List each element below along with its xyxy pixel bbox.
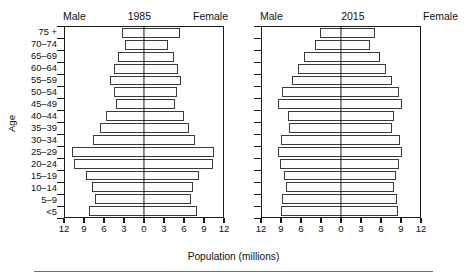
- population-axis-tick-label: 3: [161, 222, 166, 236]
- male-bar: [292, 76, 341, 86]
- male-bar: [72, 147, 144, 157]
- pyramid-row: [262, 86, 420, 98]
- male-bar: [106, 111, 144, 121]
- female-bar: [341, 64, 386, 74]
- male-bar: [100, 123, 144, 133]
- male-bar: [118, 52, 144, 62]
- age-axis-ticks-1985: [57, 26, 64, 218]
- age-axis-tick: [57, 182, 64, 183]
- age-axis-tick: [57, 62, 64, 63]
- age-axis-tick: [254, 50, 261, 51]
- male-bar: [278, 99, 341, 109]
- male-bar: [110, 76, 144, 86]
- age-group-labels-1985: 75 +70–7465–6960–6455–5950–5445–4940–443…: [18, 26, 57, 218]
- pyramid-row: [262, 98, 420, 110]
- female-bar: [341, 135, 400, 145]
- age-group-label: <5: [18, 206, 57, 218]
- age-axis-tick: [57, 194, 64, 195]
- age-axis-title: Age: [6, 104, 17, 144]
- male-bar: [278, 147, 341, 157]
- pyramid-row: [65, 193, 223, 205]
- age-axis-tick: [57, 110, 64, 111]
- population-axis-labels-1985: 12963036912: [64, 222, 224, 236]
- age-group-label: 5–9: [18, 194, 57, 206]
- population-axis-tick-label: 6: [101, 222, 106, 236]
- population-axis-tick-label: 3: [121, 222, 126, 236]
- age-axis-tick: [254, 122, 261, 123]
- female-bar: [341, 194, 397, 204]
- male-bar: [282, 194, 341, 204]
- pyramid-row: [262, 51, 420, 63]
- population-axis-tick-label: 3: [318, 222, 323, 236]
- male-bar: [86, 171, 144, 181]
- population-axis-tick-label: 6: [298, 222, 303, 236]
- female-bar: [144, 123, 189, 133]
- pyramid-row: [65, 181, 223, 193]
- age-group-label: 10–14: [18, 182, 57, 194]
- age-axis-tick: [57, 206, 64, 207]
- female-bar: [144, 99, 175, 109]
- pyramid-row: [262, 39, 420, 51]
- male-bar: [284, 171, 341, 181]
- population-axis-tick-label: 12: [416, 222, 427, 236]
- panel-header-2015: Male 2015 Female: [260, 8, 458, 24]
- pyramid-row: [65, 63, 223, 75]
- male-bar: [315, 40, 341, 50]
- pyramid-panels: Male 1985 Female 75 +70–7465–6960–6455–5…: [0, 8, 467, 240]
- female-bar: [341, 76, 392, 86]
- year-label-1985: 1985: [128, 10, 151, 22]
- male-bar: [282, 87, 341, 97]
- pyramid-row: [262, 122, 420, 134]
- female-bar: [144, 159, 213, 169]
- female-bar: [341, 206, 398, 216]
- population-axis-tick-label: 12: [256, 222, 267, 236]
- female-bar: [341, 123, 392, 133]
- pyramid-row: [65, 146, 223, 158]
- age-axis-tick: [254, 194, 261, 195]
- age-group-label: 50–54: [18, 86, 57, 98]
- age-group-label: 40–44: [18, 110, 57, 122]
- female-bar: [341, 111, 394, 121]
- pyramid-row: [65, 110, 223, 122]
- age-group-label: 35–39: [18, 122, 57, 134]
- male-bar: [320, 28, 341, 38]
- pyramid-row: [65, 51, 223, 63]
- population-axis-tick-label: 9: [201, 222, 206, 236]
- age-group-label: 75 +: [18, 26, 57, 38]
- pyramid-row: [65, 122, 223, 134]
- population-axis-tick-label: 6: [181, 222, 186, 236]
- pyramid-row: [262, 158, 420, 170]
- age-axis-tick: [254, 86, 261, 87]
- male-bar: [95, 194, 144, 204]
- male-label-2015: Male: [260, 10, 283, 22]
- year-label-2015: 2015: [341, 10, 364, 22]
- female-bar: [341, 87, 399, 97]
- female-label-1985: Female: [193, 10, 228, 22]
- age-axis-tick: [57, 134, 64, 135]
- male-bar: [74, 159, 144, 169]
- age-group-label: 60–64: [18, 62, 57, 74]
- female-bar: [341, 52, 380, 62]
- age-axis-tick: [57, 146, 64, 147]
- age-axis-tick: [254, 134, 261, 135]
- male-bar: [93, 135, 144, 145]
- pyramid-row: [262, 63, 420, 75]
- age-group-label: 25–29: [18, 146, 57, 158]
- population-axis-tick-label: 3: [358, 222, 363, 236]
- population-axis-tick-label: 9: [398, 222, 403, 236]
- female-bar: [341, 28, 375, 38]
- population-axis-title: Population (millions): [0, 251, 467, 262]
- female-bar: [144, 52, 174, 62]
- male-bar: [298, 64, 341, 74]
- population-axis-tick-label: 12: [59, 222, 70, 236]
- population-axis-tick-label: 0: [338, 222, 343, 236]
- female-label-2015: Female: [423, 10, 458, 22]
- age-group-label: 55–59: [18, 74, 57, 86]
- female-bar: [144, 135, 195, 145]
- female-bar: [144, 182, 193, 192]
- female-bar: [144, 194, 191, 204]
- pyramid-row: [262, 181, 420, 193]
- age-axis-tick: [57, 98, 64, 99]
- male-bar: [125, 40, 144, 50]
- male-bar: [289, 123, 341, 133]
